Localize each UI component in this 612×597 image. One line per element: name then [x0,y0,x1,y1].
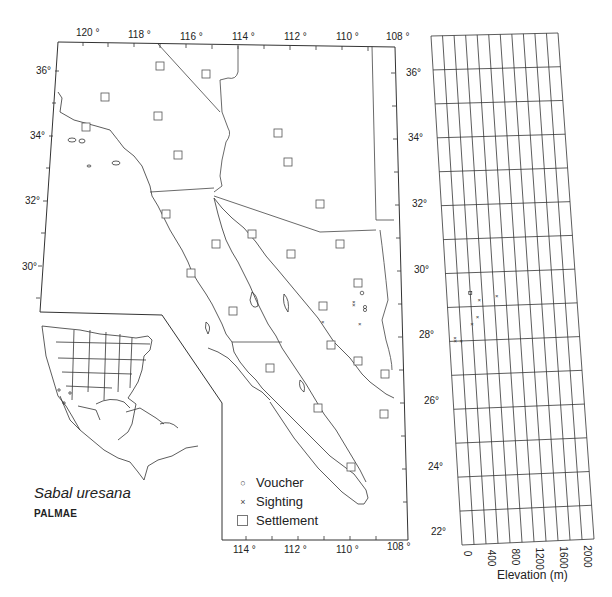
sighting-point: × [478,297,482,303]
sighting-point: × [454,338,458,344]
svg-text:800: 800 [510,549,521,566]
elevation-grid [431,33,594,545]
elevation-axis-title: Elevation (m) [497,568,568,582]
elevation-tick-labels: 0400800120016002000 [462,545,593,570]
svg-text:1600: 1600 [558,546,569,569]
sighting-point: × [495,293,499,299]
sighting-point: × [476,314,480,320]
svg-text:400: 400 [486,550,497,567]
svg-text:1200: 1200 [534,547,545,570]
svg-text:0: 0 [462,551,473,557]
sighting-point: × [459,338,463,344]
elevation-panel: ××××××× 0400800120016002000 [0,0,612,597]
sighting-point: × [470,321,474,327]
svg-text:2000: 2000 [582,545,593,568]
